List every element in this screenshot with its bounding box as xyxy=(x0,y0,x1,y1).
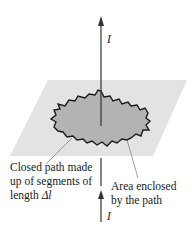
current-label-bottom: I xyxy=(106,210,112,222)
path-label-line-3: length Δl xyxy=(10,189,52,202)
path-label-line-2: up of segments of xyxy=(10,175,92,188)
arrowhead-upper xyxy=(98,16,104,26)
ampere-law-diagram: I I Closed path made up of segments of l… xyxy=(0,0,192,232)
arrowhead-lower xyxy=(98,190,104,199)
path-label-line-1: Closed path made xyxy=(10,161,92,174)
delta-l-symbol: Δl xyxy=(41,189,52,201)
area-label-line-1: Area enclosed xyxy=(111,180,177,192)
current-label-top: I xyxy=(106,33,112,45)
area-label-line-2: by the path xyxy=(111,194,162,207)
